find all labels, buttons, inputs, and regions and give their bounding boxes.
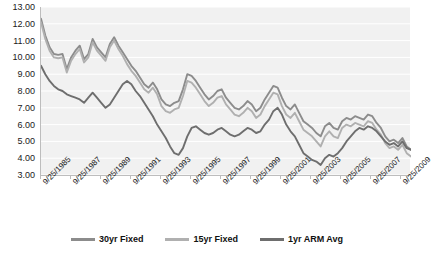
y-axis-tick-label: 13.00 xyxy=(12,3,35,12)
y-axis-tick-label: 3.00 xyxy=(17,171,35,180)
y-axis-tick-label: 12.00 xyxy=(12,20,35,29)
y-axis-tick-label: 10.00 xyxy=(12,53,35,62)
legend-label: 30yr Fixed xyxy=(99,235,144,244)
y-axis-tick-label: 8.00 xyxy=(17,87,35,96)
y-axis-tick-label: 4.00 xyxy=(17,154,35,163)
legend-label: 1yr ARM Avg xyxy=(288,235,343,244)
y-axis-tick-label: 11.00 xyxy=(13,37,35,46)
legend-color-swatch xyxy=(71,238,95,241)
y-axis: 13.0012.0011.0010.009.008.007.006.005.00… xyxy=(0,0,38,182)
y-axis-tick-label: 7.00 xyxy=(17,104,35,113)
series-line xyxy=(41,22,411,156)
legend-color-swatch xyxy=(165,238,189,241)
y-axis-tick-label: 6.00 xyxy=(17,121,35,130)
y-axis-tick-label: 9.00 xyxy=(17,70,35,79)
x-axis-labels: 9/25/19859/25/19879/25/19899/25/19919/25… xyxy=(0,180,414,226)
legend-item[interactable]: 30yr Fixed xyxy=(71,235,144,244)
legend-color-swatch xyxy=(260,238,284,241)
legend-item[interactable]: 1yr ARM Avg xyxy=(260,235,343,244)
plot-canvas xyxy=(41,7,411,175)
y-axis-tick-label: 5.00 xyxy=(17,137,35,146)
chart-legend: 30yr Fixed15yr Fixed1yr ARM Avg xyxy=(0,231,414,247)
legend-item[interactable]: 15yr Fixed xyxy=(165,235,238,244)
legend-label: 15yr Fixed xyxy=(193,235,238,244)
plot-area xyxy=(40,7,410,175)
